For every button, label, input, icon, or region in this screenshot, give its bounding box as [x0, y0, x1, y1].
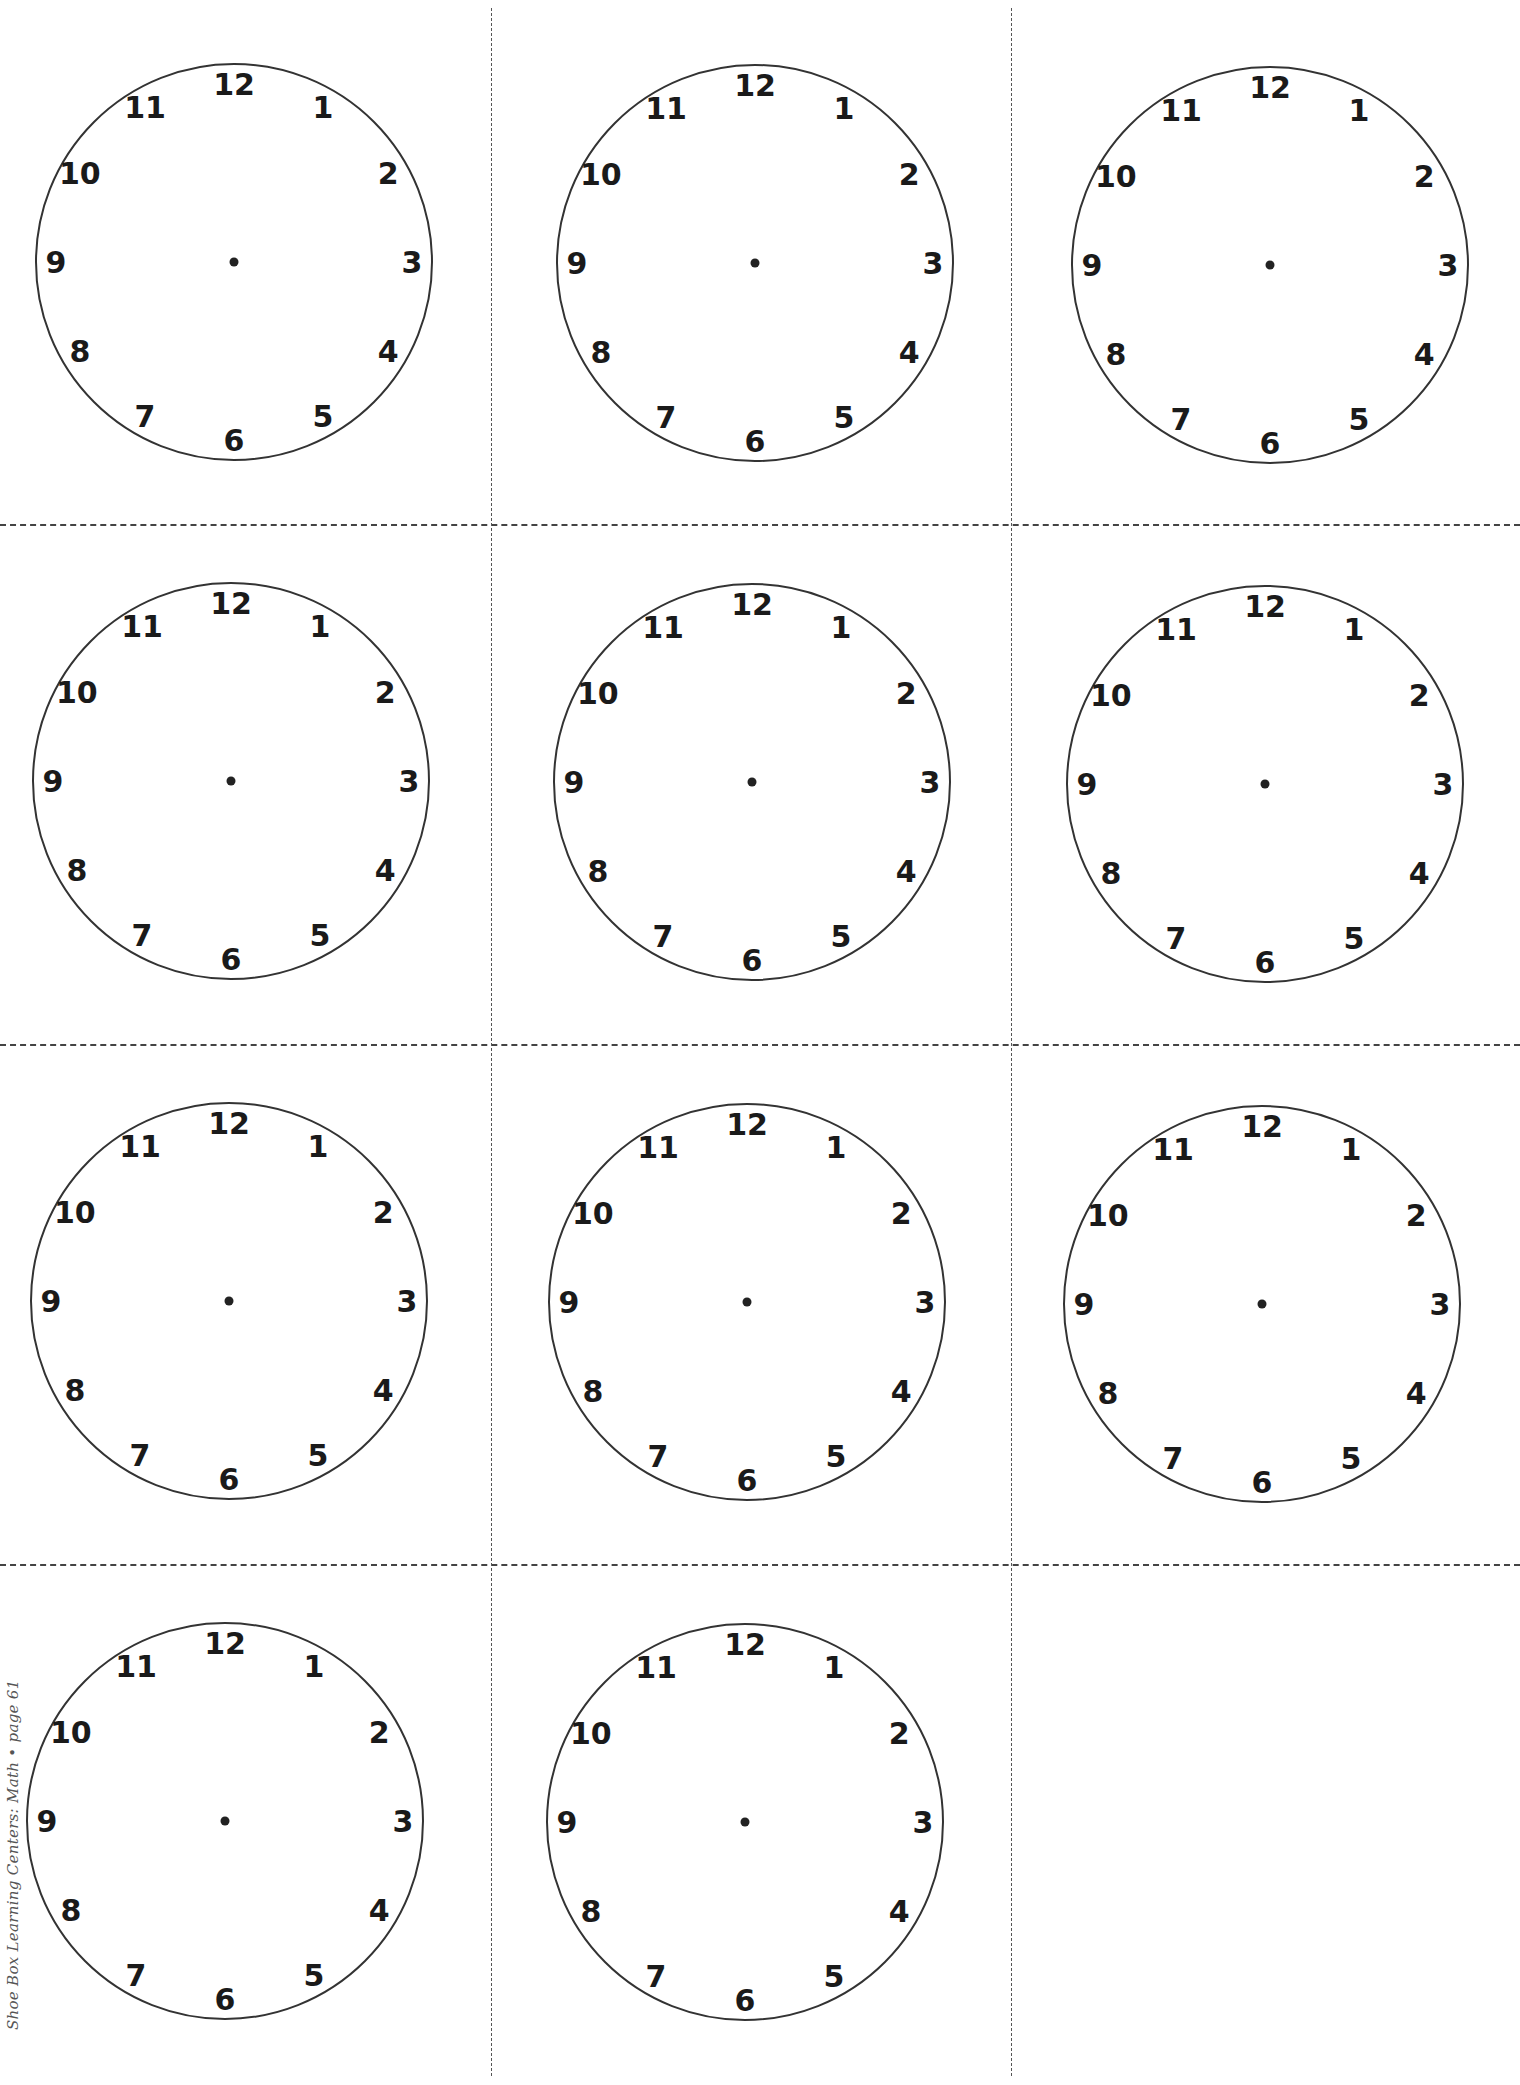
clock-numeral: 7	[135, 399, 156, 434]
clock-numeral: 8	[590, 335, 611, 370]
clock-numeral: 4	[373, 1373, 394, 1408]
clock-numeral: 8	[69, 334, 90, 369]
clock-numeral: 6	[1252, 1465, 1273, 1500]
clock-numeral: 3	[1438, 248, 1459, 283]
clock-numeral: 4	[896, 854, 917, 889]
clock-numeral: 5	[304, 1958, 325, 1993]
clock-numeral: 3	[915, 1285, 936, 1320]
clock-numeral: 5	[310, 918, 331, 953]
clock-face: 121234567891011	[31, 59, 437, 465]
clock-numeral: 11	[642, 610, 684, 645]
center-dot-icon	[221, 1817, 230, 1826]
clock-numeral: 4	[1409, 856, 1430, 891]
clock-face: 121234567891011	[549, 579, 955, 985]
clock-numeral: 2	[375, 675, 396, 710]
clock-numeral: 12	[204, 1626, 246, 1661]
clock-face: 121234567891011	[552, 60, 958, 466]
clock-numeral: 12	[213, 67, 255, 102]
horizontal-cut-line	[0, 1564, 1520, 1566]
clock-numeral: 2	[378, 156, 399, 191]
clock-numeral: 12	[210, 586, 252, 621]
clock-face: 121234567891011	[1067, 62, 1473, 468]
clock-numeral: 7	[656, 400, 677, 435]
clock-numeral: 8	[60, 1893, 81, 1928]
clock-numeral: 7	[653, 919, 674, 954]
clock-numeral: 10	[1087, 1198, 1129, 1233]
clock-numeral: 11	[1160, 93, 1202, 128]
clock-numeral: 10	[56, 675, 98, 710]
clock-numeral: 10	[54, 1195, 96, 1230]
clock-numeral: 4	[891, 1374, 912, 1409]
clock-face: 121234567891011	[28, 578, 434, 984]
clock-numeral: 1	[1349, 93, 1370, 128]
clock-numeral: 3	[913, 1805, 934, 1840]
clock-numeral: 10	[59, 156, 101, 191]
center-dot-icon	[227, 777, 236, 786]
clock-numeral: 10	[50, 1715, 92, 1750]
clock-numeral: 7	[132, 918, 153, 953]
clock-numeral: 7	[1166, 921, 1187, 956]
clock-numeral: 2	[1414, 159, 1435, 194]
clock-numeral: 8	[582, 1374, 603, 1409]
clock-numeral: 2	[369, 1715, 390, 1750]
clock-numeral: 7	[130, 1438, 151, 1473]
clock-numeral: 4	[369, 1893, 390, 1928]
clock-numeral: 3	[923, 246, 944, 281]
clock-numeral: 12	[208, 1106, 250, 1141]
clock-numeral: 4	[899, 335, 920, 370]
clock-numeral: 3	[1430, 1287, 1451, 1322]
clock-numeral: 11	[635, 1650, 677, 1685]
clock-face: 121234567891011	[542, 1619, 948, 2025]
clock-numeral: 10	[1095, 159, 1137, 194]
center-dot-icon	[748, 778, 757, 787]
clock-numeral: 3	[393, 1804, 414, 1839]
clock-numeral: 11	[124, 90, 166, 125]
clock-numeral: 1	[310, 609, 331, 644]
clock-numeral: 11	[645, 91, 687, 126]
clock-numeral: 8	[1097, 1376, 1118, 1411]
clock-numeral: 5	[313, 399, 334, 434]
clock-numeral: 9	[1074, 1287, 1095, 1322]
clock-numeral: 1	[1341, 1132, 1362, 1167]
clock-numeral: 7	[646, 1959, 667, 1994]
vertical-cut-line	[1011, 8, 1012, 2076]
clock-numeral: 4	[1414, 337, 1435, 372]
clock-numeral: 6	[737, 1463, 758, 1498]
clock-numeral: 10	[1090, 678, 1132, 713]
clock-numeral: 11	[1152, 1132, 1194, 1167]
clock-numeral: 3	[397, 1284, 418, 1319]
clock-face: 121234567891011	[26, 1098, 432, 1504]
clock-numeral: 10	[577, 676, 619, 711]
clock-numeral: 1	[304, 1649, 325, 1684]
clock-numeral: 1	[308, 1129, 329, 1164]
clock-numeral: 6	[215, 1982, 236, 2017]
clock-numeral: 12	[1249, 70, 1291, 105]
clock-numeral: 9	[1077, 767, 1098, 802]
center-dot-icon	[1266, 261, 1275, 270]
clock-numeral: 11	[1155, 612, 1197, 647]
clock-numeral: 2	[889, 1716, 910, 1751]
clock-numeral: 4	[889, 1894, 910, 1929]
center-dot-icon	[225, 1297, 234, 1306]
clock-numeral: 9	[1082, 248, 1103, 283]
clock-numeral: 12	[726, 1107, 768, 1142]
worksheet-page: 1212345678910111212345678910111212345678…	[0, 0, 1520, 2085]
clock-numeral: 1	[313, 90, 334, 125]
clock-numeral: 9	[41, 1284, 62, 1319]
clock-numeral: 9	[567, 246, 588, 281]
clock-numeral: 7	[1163, 1441, 1184, 1476]
clock-numeral: 3	[920, 765, 941, 800]
clock-numeral: 6	[221, 942, 242, 977]
clock-numeral: 8	[1100, 856, 1121, 891]
clock-numeral: 3	[1433, 767, 1454, 802]
clock-numeral: 3	[399, 764, 420, 799]
clock-numeral: 6	[745, 424, 766, 459]
clock-numeral: 2	[373, 1195, 394, 1230]
clock-face: 121234567891011	[1059, 1101, 1465, 1507]
clock-numeral: 11	[637, 1130, 679, 1165]
clock-numeral: 9	[557, 1805, 578, 1840]
clock-numeral: 12	[724, 1627, 766, 1662]
clock-numeral: 4	[1406, 1376, 1427, 1411]
center-dot-icon	[741, 1818, 750, 1827]
clock-numeral: 10	[580, 157, 622, 192]
